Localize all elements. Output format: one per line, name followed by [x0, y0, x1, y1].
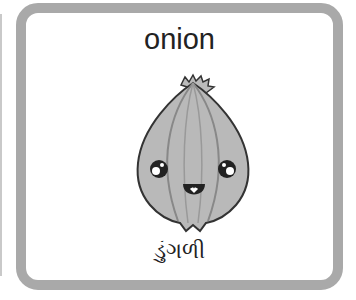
flashcard: onion ડુંગળી — [16, 3, 343, 290]
english-word: onion — [26, 23, 333, 56]
onion-icon — [126, 71, 260, 235]
gujarati-word: ડુંગળી — [26, 238, 333, 263]
adjacent-card-edge — [0, 14, 2, 276]
